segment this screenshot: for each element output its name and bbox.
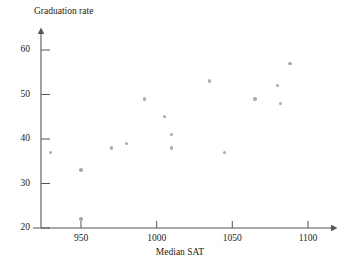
y-tick-label-40: 40 [4, 133, 30, 143]
x-tick-label-1000: 1000 [137, 233, 177, 243]
data-point [79, 168, 82, 171]
y-tick-label-20: 20 [4, 222, 30, 232]
x-tick-label-1100: 1100 [288, 233, 328, 243]
y-tick-label-60: 60 [4, 44, 30, 54]
data-point [288, 62, 291, 65]
y-axis-ticks [41, 50, 50, 228]
x-axis-title: Median SAT [0, 247, 360, 257]
x-axis-ticks [81, 221, 308, 228]
y-tick-label-50: 50 [4, 89, 30, 99]
data-point [110, 146, 113, 149]
x-tick-label-950: 950 [61, 233, 101, 243]
x-tick-label-1050: 1050 [212, 233, 252, 243]
data-point [253, 97, 256, 100]
plot-axes-svg [0, 0, 360, 272]
scatter-plot-figure: Graduation rate 20 30 40 50 60 950 1000 … [0, 0, 360, 272]
y-tick-label-30: 30 [4, 178, 30, 188]
data-point [143, 97, 146, 100]
data-point [79, 217, 82, 220]
